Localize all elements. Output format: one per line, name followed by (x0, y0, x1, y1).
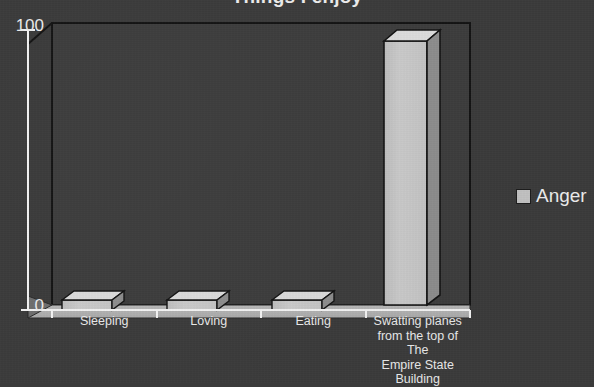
bar-loving (167, 291, 229, 310)
chart-title: Things I enjoy (0, 0, 594, 8)
y-axis-label-max: 100 (2, 16, 44, 36)
legend-label-anger: Anger (536, 185, 587, 207)
legend-swatch-anger (516, 189, 531, 204)
x-axis-label-swatting-planes: Swatting planesfrom the top of TheEmpire… (366, 314, 471, 382)
legend: Anger (516, 185, 587, 207)
x-axis-label-sleeping: Sleeping (52, 314, 157, 382)
bar-swatting-planes (384, 30, 440, 305)
x-axis-label-loving: Loving (157, 314, 262, 382)
y-axis-label-min: 0 (2, 296, 44, 316)
x-axis-category-labels: Sleeping Loving Eating Swatting planesfr… (52, 314, 470, 382)
bar-eating (272, 291, 334, 310)
bar-sleeping (62, 291, 124, 310)
x-axis-label-eating: Eating (261, 314, 366, 382)
